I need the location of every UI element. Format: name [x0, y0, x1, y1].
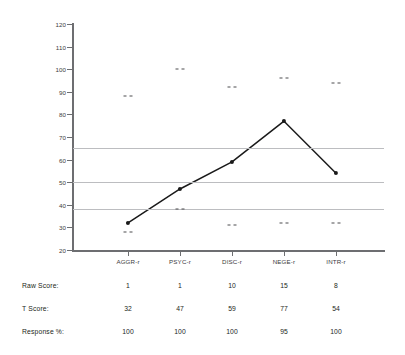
ci-tick-upper: [228, 87, 237, 88]
y-axis-tick-mark: [67, 114, 73, 115]
ci-tick-upper: [280, 78, 289, 79]
ci-tick-lower: [176, 209, 185, 210]
x-axis-tick-mark: [336, 251, 337, 256]
y-axis-tick-mark: [67, 250, 73, 251]
table-cell: 10: [228, 282, 236, 289]
ci-tick-upper: [332, 82, 341, 83]
y-axis-tick-label: 110: [40, 43, 66, 50]
reference-line-t65: [73, 148, 384, 149]
y-axis-tick-label: 120: [40, 21, 66, 28]
table-cell: 100: [330, 328, 341, 335]
table-cell: 15: [280, 282, 288, 289]
y-axis-tick-label: 50: [40, 179, 66, 186]
table-cell: 54: [332, 305, 340, 312]
table-row-label: Raw Score:: [22, 282, 59, 289]
y-axis-tick-label: 40: [40, 201, 66, 208]
table-row-label: Response %:: [22, 328, 64, 335]
y-axis-tick-label: 90: [40, 88, 66, 95]
y-axis-tick-label: 70: [40, 134, 66, 141]
ci-tick-lower: [280, 222, 289, 223]
table-cell: 77: [280, 305, 288, 312]
y-axis-tick-label: 20: [40, 247, 66, 254]
y-axis-tick-label: 30: [40, 224, 66, 231]
x-axis-tick-mark: [232, 251, 233, 256]
y-axis-tick-mark: [67, 137, 73, 138]
reference-line-t50: [73, 182, 384, 183]
y-axis-tick-mark: [67, 69, 73, 70]
ci-tick-lower: [228, 225, 237, 226]
x-axis-category-intr-r: INTR-r: [326, 258, 345, 265]
y-axis-tick-label: 100: [40, 66, 66, 73]
table-cell: 8: [334, 282, 338, 289]
x-axis-line: [72, 250, 385, 252]
table-cell: 100: [226, 328, 237, 335]
table-cell: 59: [228, 305, 236, 312]
table-cell: 32: [124, 305, 132, 312]
table-cell: 95: [280, 328, 288, 335]
table-cell: 47: [176, 305, 184, 312]
x-axis-category-disc-r: DISC-r: [222, 258, 242, 265]
table-row: Response %:10010010095100: [0, 328, 405, 348]
table-cell: 1: [126, 282, 130, 289]
y-axis-tick-mark: [67, 92, 73, 93]
table-row: Raw Score:1110158: [0, 282, 405, 302]
ci-tick-upper: [176, 69, 185, 70]
table-cell: 1: [178, 282, 182, 289]
x-axis-tick-mark: [180, 251, 181, 256]
x-axis-tick-mark: [128, 251, 129, 256]
data-point-disc-r: [230, 160, 234, 164]
reference-line-t38: [73, 209, 384, 210]
y-axis-tick-mark: [67, 24, 73, 25]
y-axis-tick-mark: [67, 227, 73, 228]
table-cell: 100: [122, 328, 133, 335]
x-axis-category-aggr-r: AGGR-r: [116, 258, 139, 265]
table-cell: 100: [174, 328, 185, 335]
data-point-intr-r: [334, 171, 338, 175]
y-axis-tick-mark: [67, 205, 73, 206]
table-row-label: T Score:: [22, 305, 49, 312]
data-point-psyc-r: [178, 187, 182, 191]
data-point-nege-r: [282, 119, 286, 123]
data-point-aggr-r: [126, 221, 130, 225]
table-row: T Score:3247597754: [0, 305, 405, 325]
y-axis-tick-label: 80: [40, 111, 66, 118]
score-profile-chart: 1201101009080706050403020 AGGR-rPSYC-rDI…: [0, 0, 405, 355]
y-axis-tick-label: 60: [40, 156, 66, 163]
x-axis-category-nege-r: NEGE-r: [273, 258, 296, 265]
y-axis-tick-mark: [67, 160, 73, 161]
x-axis-tick-mark: [284, 251, 285, 256]
ci-tick-lower: [124, 231, 133, 232]
y-axis-tick-mark: [67, 47, 73, 48]
ci-tick-upper: [124, 96, 133, 97]
x-axis-category-psyc-r: PSYC-r: [169, 258, 191, 265]
ci-tick-lower: [332, 222, 341, 223]
score-summary-table: Raw Score:1110158T Score:3247597754Respo…: [0, 282, 405, 348]
